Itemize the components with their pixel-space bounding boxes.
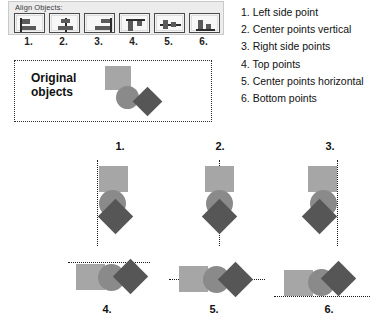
original-objects-box: Original objects xyxy=(14,60,212,122)
example-4-number: 4. xyxy=(92,303,122,315)
align-right-button[interactable] xyxy=(84,13,115,33)
legend-item-2: 2. Center points vertical xyxy=(241,21,391,38)
example-2-number: 2. xyxy=(205,140,235,152)
align-button-number-6: 6. xyxy=(188,36,219,47)
example-3-number: 3. xyxy=(315,140,345,152)
align-center-vertical-icon xyxy=(51,15,78,31)
example-6-bottom-align: 6. xyxy=(272,258,391,324)
example-1-left-align: 1. xyxy=(75,140,185,250)
example-1-square-shape xyxy=(99,166,128,192)
align-button-number-2: 2. xyxy=(48,36,79,47)
align-right-icon xyxy=(86,15,113,31)
align-button-number-4: 4. xyxy=(118,36,149,47)
align-center-horizontal-icon xyxy=(156,15,183,31)
legend-item-3: 3. Right side points xyxy=(241,38,391,55)
example-5-number: 5. xyxy=(199,303,229,315)
align-top-icon xyxy=(121,15,148,31)
align-button-number-3: 3. xyxy=(83,36,114,47)
align-bottom-button[interactable] xyxy=(189,13,220,33)
example-2-center-vertical-align: 2. xyxy=(180,140,290,250)
align-center-horizontal-button[interactable] xyxy=(154,13,185,33)
align-button-number-5: 5. xyxy=(153,36,184,47)
example-1-number: 1. xyxy=(105,140,135,152)
example-6-number: 6. xyxy=(314,303,344,315)
legend-item-6: 6. Bottom points xyxy=(241,90,391,107)
legend-item-4: 4. Top points xyxy=(241,56,391,73)
legend-item-1: 1. Left side point xyxy=(241,4,391,21)
original-objects-label-line2: objects xyxy=(31,85,76,99)
example-1-guide-line xyxy=(97,160,98,246)
align-top-button[interactable] xyxy=(119,13,150,33)
align-button-number-1: 1. xyxy=(13,36,44,47)
align-bottom-icon xyxy=(191,15,218,31)
example-3-square-shape xyxy=(308,166,337,192)
original-objects-label: Original objects xyxy=(31,71,76,99)
example-6-guide-line xyxy=(274,296,370,297)
example-4-guide-line xyxy=(68,262,150,263)
align-objects-panel: Align Objects: xyxy=(8,1,224,35)
original-objects-label-line1: Original xyxy=(31,71,76,85)
example-2-square-shape xyxy=(205,166,234,192)
example-3-guide-line xyxy=(337,160,338,246)
align-button-numbers: 1. 2. 3. 4. 5. 6. xyxy=(13,36,219,47)
align-objects-panel-title: Align Objects: xyxy=(15,3,63,12)
legend-list: 1. Left side point 2. Center points vert… xyxy=(241,4,391,107)
legend-item-5: 5. Center points horizontal xyxy=(241,73,391,90)
align-center-vertical-button[interactable] xyxy=(49,13,80,33)
example-3-right-align: 3. xyxy=(285,140,391,250)
align-left-button[interactable] xyxy=(14,13,45,33)
align-objects-button-group xyxy=(14,13,220,33)
align-left-icon xyxy=(16,15,43,31)
